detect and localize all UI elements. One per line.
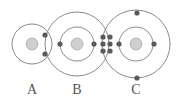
electron (57, 41, 62, 46)
shared-electron (100, 34, 105, 39)
shared-electron (107, 48, 112, 53)
electron (42, 51, 47, 56)
electron (134, 10, 139, 15)
nucleus (26, 38, 38, 50)
shared-electron (107, 41, 112, 46)
electron (91, 41, 96, 46)
label-b: B (72, 82, 81, 98)
label-c: C (131, 82, 140, 98)
label-a: A (27, 82, 37, 98)
nucleus (71, 38, 83, 50)
shared-electron (100, 41, 105, 46)
electron (42, 32, 47, 37)
electron (134, 75, 139, 80)
nucleus (130, 38, 142, 50)
shared-electron (107, 34, 112, 39)
electron (151, 41, 156, 46)
shared-electron (100, 48, 105, 53)
electron (116, 41, 121, 46)
